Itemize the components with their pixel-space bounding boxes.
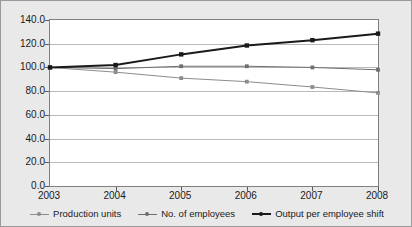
y-axis-tick-label: 80.0 <box>1 86 45 96</box>
data-point-marker <box>245 80 249 84</box>
y-axis-tick-label: 40.0 <box>1 134 45 144</box>
y-axis-tick-label: 20.0 <box>1 157 45 167</box>
data-point-marker <box>245 64 249 68</box>
x-axis-tick-mark <box>181 187 182 191</box>
data-point-marker <box>114 70 118 74</box>
y-axis-tick-label: 100.0 <box>1 62 45 72</box>
y-axis-tick-label: 60.0 <box>1 110 45 120</box>
series-lines <box>50 20 378 186</box>
x-axis-tick-mark <box>378 187 379 191</box>
x-axis-tick-label: 2008 <box>352 190 402 201</box>
plot-area <box>49 19 379 187</box>
x-axis-tick-mark <box>247 187 248 191</box>
x-axis-tick-label: 2003 <box>24 190 74 201</box>
legend-marker-icon <box>138 210 157 219</box>
x-axis-tick-label: 2007 <box>286 190 336 201</box>
legend-item[interactable]: Output per employee shift <box>252 209 384 219</box>
series-line <box>50 66 378 70</box>
data-point-marker <box>179 52 183 56</box>
x-axis-tick-label: 2006 <box>221 190 271 201</box>
legend-marker-icon <box>30 210 49 219</box>
x-axis-tick-mark <box>116 187 117 191</box>
data-point-marker <box>245 43 249 47</box>
chart-figure: 0.020.040.060.080.0100.0120.0140.0 20032… <box>0 0 412 227</box>
data-point-marker <box>376 91 380 95</box>
series-line <box>50 34 378 68</box>
x-axis-tick-label: 2004 <box>90 190 140 201</box>
data-point-marker <box>179 64 183 68</box>
data-point-marker <box>48 65 52 69</box>
data-point-marker <box>376 31 380 35</box>
legend-marker-icon <box>252 210 271 219</box>
data-point-marker <box>179 76 183 80</box>
series-line <box>50 67 378 92</box>
data-point-marker <box>114 67 118 71</box>
data-point-marker <box>311 85 315 89</box>
x-axis-tick-label: 2005 <box>155 190 205 201</box>
data-point-marker <box>310 38 314 42</box>
y-axis-tick-label: 140.0 <box>1 15 45 25</box>
legend-label: No. of employees <box>161 209 235 219</box>
data-point-marker <box>311 66 315 70</box>
y-axis-tick-label: 120.0 <box>1 39 45 49</box>
legend-label: Production units <box>53 209 121 219</box>
legend-label: Output per employee shift <box>275 209 384 219</box>
data-point-marker <box>376 68 380 72</box>
data-point-marker <box>113 63 117 67</box>
chart-legend: Production unitsNo. of employeesOutput p… <box>1 206 412 222</box>
x-axis-tick-mark <box>312 187 313 191</box>
legend-item[interactable]: Production units <box>30 209 121 219</box>
x-axis: 200320042005200620072008 <box>49 190 379 204</box>
legend-item[interactable]: No. of employees <box>138 209 235 219</box>
